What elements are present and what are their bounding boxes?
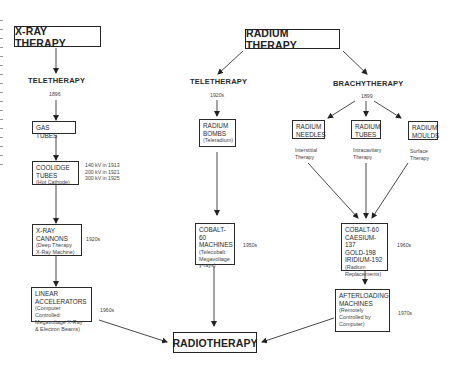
afterloading-sub: Controlled by <box>339 314 386 321</box>
needles-note-line: Interstitial <box>295 147 317 154</box>
radium-therapy-root: RADIUM THERAPY <box>245 29 340 49</box>
radium-moulds-node: RADIUM MOULDS <box>408 121 438 140</box>
cannons-date: 1920s <box>86 236 100 243</box>
cannons-sub: (Deep Therapy <box>36 242 78 249</box>
linac-sub: & Electron Beams) <box>35 326 88 333</box>
tubes-label-1: RADIUM <box>355 123 377 131</box>
xray-year: 1896 <box>49 91 61 98</box>
cobalt-sub: γ-rays) <box>199 262 231 269</box>
linear-accelerators-node: LINEAR ACCELERATORS (Computer Controlled… <box>31 287 92 322</box>
tubes-note-line: Intracavitary <box>353 147 381 154</box>
linac-label-2: ACCELERATORS <box>35 298 88 306</box>
tubes-note: Intracavitary Therapy <box>353 147 381 160</box>
moulds-note: Surface Therapy <box>410 148 429 161</box>
afterloading-date: 1970s <box>398 310 412 317</box>
coolidge-note: 140 kV in 1913 <box>85 162 120 169</box>
afterloading-label-2: MACHINES <box>339 300 386 308</box>
cobalt-label-1: COBALT-60 <box>199 226 231 241</box>
radiotherapy-node: RADIOTHERAPY <box>173 332 257 353</box>
replacement-isotope: COBALT-60 <box>345 226 384 234</box>
coolidge-voltage-notes: 140 kV in 1913 200 kV in 1921 300 kV in … <box>85 162 120 182</box>
radium-teletherapy-heading: TELETHERAPY <box>190 77 247 86</box>
bombs-label-2: BOMBS <box>203 130 232 138</box>
afterloading-sub: Computer) <box>339 321 386 328</box>
xray-therapy-root: X-RAY THERAPY <box>14 26 101 47</box>
tubes-note-line: Therapy <box>353 154 381 161</box>
replacement-isotope: IRIDIUM-192 <box>345 256 384 264</box>
replacement-isotope: CAESIUM-137 <box>345 234 384 249</box>
replacement-isotope: GOLD-198 <box>345 249 384 257</box>
tubes-label-2: TUBES <box>355 131 377 139</box>
needles-label-1: RADIUM <box>296 123 321 131</box>
needles-note: Interstitial Therapy <box>295 147 317 160</box>
radium-therapy-label: RADIUM THERAPY <box>246 27 339 51</box>
cobalt-date: 1950s <box>243 242 257 249</box>
cannons-label-1: X-RAY <box>36 227 78 235</box>
replacements-date: 1960s <box>397 242 411 249</box>
linac-sub: (Computer Controlled: <box>35 305 88 319</box>
replacement-sub: (Radium <box>345 264 384 271</box>
moulds-label-1: RADIUM <box>412 124 434 132</box>
coolidge-sub: (Hot Cathode) <box>36 179 75 186</box>
moulds-note-line: Surface <box>410 148 429 155</box>
radiotherapy-label: RADIOTHERAPY <box>172 337 257 349</box>
coolidge-label-2: TUBES <box>36 172 75 180</box>
linac-label-1: LINEAR <box>35 290 88 298</box>
cobalt-sub: (Telecobalt: <box>199 249 231 256</box>
cannons-sub: X-Ray Machine) <box>36 249 78 256</box>
bombs-sub: (Teleradium) <box>203 137 232 144</box>
cobalt-sub: Megavoltage <box>199 256 231 263</box>
radium-replacements-node: COBALT-60 CAESIUM-137 GOLD-198 IRIDIUM-1… <box>341 223 388 271</box>
cobalt-60-machines-node: COBALT-60 MACHINES (Telecobalt: Megavolt… <box>195 223 235 265</box>
gas-tubes-node: GAS TUBES <box>32 121 76 134</box>
replacement-sub: Replacements) <box>345 271 384 278</box>
coolidge-note: 300 kV in 1925 <box>85 175 120 182</box>
coolidge-label-1: COOLIDGE <box>36 164 75 172</box>
radium-tele-year: 1920s <box>210 92 224 99</box>
cannons-label-2: CANNONS <box>36 235 78 243</box>
afterloading-label-1: AFTERLOADING <box>339 292 386 300</box>
coolidge-tubes-node: COOLIDGE TUBES (Hot Cathode) <box>32 161 79 185</box>
brachy-year: 1899 <box>361 93 373 100</box>
needles-label-2: NEEDLES <box>296 131 321 139</box>
linac-date: 1960s <box>100 307 114 314</box>
afterloading-sub: (Remotely <box>339 307 386 314</box>
moulds-label-2: MOULDS <box>412 132 434 140</box>
linac-sub: Megavoltage X-Ray <box>35 319 88 326</box>
bombs-label-1: RADIUM <box>203 122 232 130</box>
moulds-note-line: Therapy <box>410 155 429 162</box>
radium-tubes-node: RADIUM TUBES <box>351 120 381 139</box>
xray-teletherapy-heading: TELETHERAPY <box>28 76 85 85</box>
needles-note-line: Therapy <box>295 154 317 161</box>
xray-therapy-label: X-RAY THERAPY <box>15 25 100 49</box>
xray-cannons-node: X-RAY CANNONS (Deep Therapy X-Ray Machin… <box>32 224 82 256</box>
radium-bombs-node: RADIUM BOMBS (Teleradium) <box>199 119 236 147</box>
afterloading-machines-node: AFTERLOADING MACHINES (Remotely Controll… <box>335 289 390 332</box>
gas-tubes-label: GAS TUBES <box>36 124 72 139</box>
cobalt-label-2: MACHINES <box>199 241 231 249</box>
brachytherapy-heading: BRACHYTHERAPY <box>333 79 404 88</box>
coolidge-note: 200 kV in 1921 <box>85 169 120 176</box>
radium-needles-node: RADIUM NEEDLES <box>292 120 325 139</box>
